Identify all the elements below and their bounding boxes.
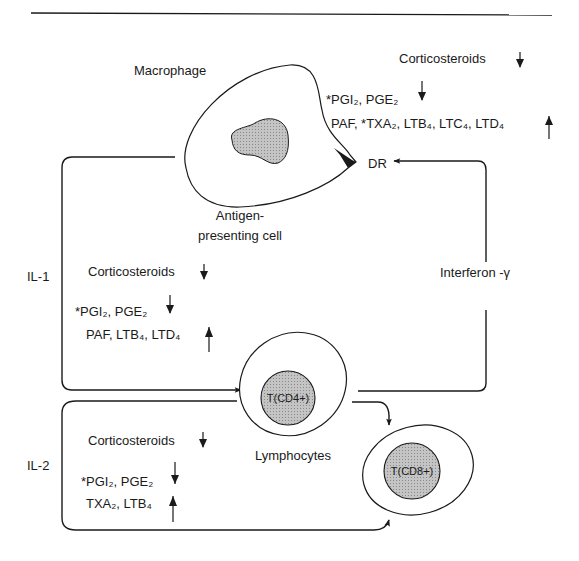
lymphocytes-label: Lymphocytes: [255, 448, 332, 463]
arrow-down-icon: [200, 264, 208, 280]
arrow-down-icon: [418, 81, 426, 101]
arrow-up-icon: [169, 496, 177, 522]
interferon-label: Interferon -γ: [440, 265, 511, 280]
diagram-canvas: Macrophage Antigen- presenting cell DR C…: [0, 0, 579, 561]
arrow-up-icon: [545, 116, 553, 139]
arrow-up-icon: [205, 327, 213, 352]
macrophage-line1: *PGI₂, PGE₂: [326, 92, 398, 107]
t-cd8-label: T(CD8+): [391, 465, 433, 477]
dr-label: DR: [368, 156, 387, 171]
arrow-down-icon: [516, 52, 524, 68]
macrophage-cell: [185, 65, 356, 207]
il1-line2: PAF, LTB₄, LTD₄: [86, 327, 180, 342]
arrow-down-icon: [199, 432, 207, 448]
il1-line1: *PGI₂, PGE₂: [75, 304, 147, 319]
antigen-presenting-line1: Antigen-: [216, 208, 264, 223]
top-rule: [31, 13, 552, 15]
arrow-down-icon: [171, 462, 179, 484]
il1-label: IL-1: [27, 269, 49, 284]
il2-line1: *PGI₂, PGE₂: [81, 474, 153, 489]
il1-corticosteroids: Corticosteroids: [88, 264, 175, 279]
il2-label: IL-2: [27, 458, 49, 473]
t-cd4-label: T(CD4+): [267, 392, 309, 404]
antigen-presenting-line2: presenting cell: [198, 228, 282, 243]
macrophage-corticosteroids: Corticosteroids: [399, 51, 486, 66]
arrow-down-icon: [166, 295, 174, 314]
il2-corticosteroids: Corticosteroids: [88, 433, 175, 448]
macrophage-line2: PAF, *TXA₂, LTB₄, LTC₄, LTD₄: [331, 116, 504, 131]
il2-line2: TXA₂, LTB₄: [86, 496, 152, 511]
cd4-to-cd8-path: [352, 402, 389, 425]
macrophage-title: Macrophage: [134, 63, 206, 78]
t-cd4-cell: [219, 311, 366, 456]
